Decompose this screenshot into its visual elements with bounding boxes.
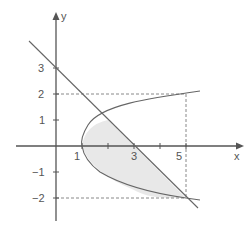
y-tick-label-3: 3 [38, 62, 44, 74]
x-tick-label-3: 3 [131, 150, 137, 162]
y-tick-label-m2: −2 [32, 192, 45, 204]
plot-area: x y 1 3 5 3 2 1 −1 −2 [0, 0, 252, 232]
x-axis-arrow-icon [236, 143, 244, 150]
y-tick-label-2: 2 [38, 88, 44, 100]
x-axis-label: x [234, 150, 240, 162]
y-axis-label: y [61, 10, 67, 22]
line-y-eq-3-minus-x [29, 41, 198, 208]
y-tick-label-1: 1 [39, 114, 45, 126]
x-tick-label-1: 1 [74, 150, 80, 162]
y-tick-label-m1: −1 [32, 166, 45, 178]
y-axis-arrow-icon [53, 12, 60, 20]
x-tick-label-5: 5 [176, 150, 182, 162]
